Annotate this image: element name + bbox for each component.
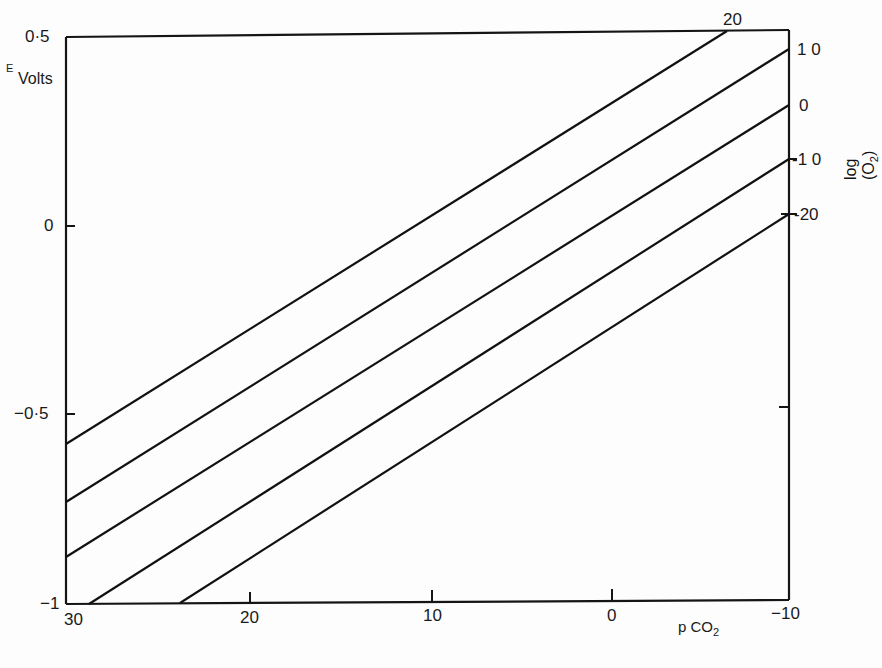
line-log-o2-0 (66, 105, 789, 557)
line-log-o2-minus10 (89, 159, 789, 604)
right-label-0: 0 (799, 96, 808, 116)
chart-plot (0, 0, 882, 668)
right-label-minus-10: -1 0 (792, 150, 821, 170)
right-axis-label-close: ) (860, 151, 877, 156)
right-axis-label-subscript: 2 (868, 156, 880, 162)
x-axis-label-subscript: 2 (713, 626, 719, 638)
axis-ticks (66, 159, 797, 603)
right-label-minus-20: -20 (794, 205, 819, 225)
y-tick-0.5: 0·5 (25, 27, 50, 47)
x-tick-10: 10 (423, 606, 442, 626)
y-tick-minus-1: −1 (40, 594, 59, 614)
y-axis-label-volts: Volts (18, 70, 53, 88)
x-tick-minus-10: −10 (771, 604, 800, 624)
line-log-o2-20 (66, 31, 727, 444)
right-label-10: 1 0 (797, 40, 821, 60)
x-tick-20: 20 (240, 608, 259, 628)
x-tick-30: 30 (64, 610, 83, 630)
x-tick-0: 0 (607, 606, 616, 626)
line-log-o2-minus20 (180, 214, 789, 603)
series-lines (66, 31, 789, 604)
y-tick-0: 0 (44, 216, 53, 236)
y-axis-label-e: E (6, 62, 13, 74)
right-axis-label: log (O2) (842, 140, 880, 180)
x-axis-label: p CO2 (678, 618, 719, 638)
right-label-20: 20 (723, 10, 742, 30)
line-log-o2-10 (66, 49, 789, 502)
x-axis-label-text: p CO (678, 618, 713, 635)
y-tick-minus-0.5: −0·5 (14, 404, 49, 424)
